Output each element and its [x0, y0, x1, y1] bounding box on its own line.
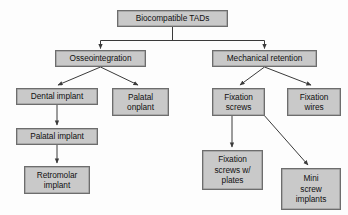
node-palatal-onplant[interactable]: Palatal onplant — [112, 88, 169, 116]
node-label: Palatal implant — [17, 131, 97, 142]
node-fixation-screws[interactable]: Fixation screws — [212, 88, 265, 116]
node-label: Biocompatible TADs — [118, 13, 227, 24]
node-label: Retromolar implant — [25, 170, 89, 191]
node-label: Fixation screws — [213, 92, 264, 113]
node-fixation-wires[interactable]: Fixation wires — [287, 88, 341, 116]
edge-mechanical-retention-fixation-wires — [265, 67, 312, 85]
node-label: Fixation wires — [288, 92, 340, 113]
node-label: Mechanical retention — [213, 53, 316, 64]
node-label: Osseointegration — [56, 53, 145, 64]
node-label: Dental implant — [17, 91, 97, 102]
flowchart-diagram: Biocompatible TADs Osseointegration Mech… — [0, 0, 348, 215]
node-dental-implant[interactable]: Dental implant — [16, 88, 98, 105]
node-mini-screw-implants[interactable]: Mini screw implants — [281, 168, 341, 210]
node-biocompatible-tads[interactable]: Biocompatible TADs — [117, 10, 228, 27]
edge-osseointegration-palatal-onplant — [101, 67, 139, 85]
node-label: Fixation screws w/ plates — [203, 154, 262, 186]
node-retromolar-implant[interactable]: Retromolar implant — [24, 166, 90, 194]
edge-mechanical-retention-fixation-screws — [240, 67, 265, 85]
edge-fixation-screws-mini-screw-implants — [263, 114, 308, 165]
node-osseointegration[interactable]: Osseointegration — [55, 50, 146, 67]
node-fixation-screws-with-plates[interactable]: Fixation screws w/ plates — [202, 150, 263, 190]
edge-osseointegration-dental-implant — [58, 67, 101, 85]
node-palatal-implant[interactable]: Palatal implant — [16, 128, 98, 145]
node-label: Mini screw implants — [282, 173, 340, 205]
node-mechanical-retention[interactable]: Mechanical retention — [212, 50, 317, 67]
node-label: Palatal onplant — [113, 92, 168, 113]
